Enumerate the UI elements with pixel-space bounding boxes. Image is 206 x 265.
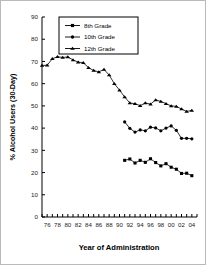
series-line <box>42 57 192 112</box>
data-point-triangle <box>122 95 127 98</box>
data-point-triangle <box>117 88 122 91</box>
x-tick-label: 94 <box>137 221 144 228</box>
y-tick-label: 60 <box>31 80 38 87</box>
data-point-triangle <box>153 98 158 101</box>
data-point-square <box>180 172 183 175</box>
data-point-circle <box>164 127 167 130</box>
x-tick-label: 02 <box>178 221 185 228</box>
y-tick-label: 40 <box>31 124 38 131</box>
data-point-square <box>154 161 157 164</box>
data-point-triangle <box>112 82 117 85</box>
x-tick-label: 84 <box>85 221 92 228</box>
y-tick-label: 80 <box>31 35 38 42</box>
data-point-square <box>159 164 162 167</box>
data-point-circle <box>149 126 152 129</box>
data-point-square <box>170 166 173 169</box>
x-tick-label: 76 <box>44 221 51 228</box>
legend-label[interactable]: 10th Grade <box>84 33 116 40</box>
y-axis-title: % Alcohol Users (30-Day) <box>8 73 17 160</box>
data-point-circle <box>159 129 162 132</box>
data-point-triangle <box>55 55 60 58</box>
data-point-square <box>190 174 193 177</box>
data-point-triangle <box>190 109 195 112</box>
legend-items: 8th Grade10th Grade12th Grade <box>65 22 116 52</box>
chart-legend: 8th Grade10th Grade12th Grade <box>59 17 138 54</box>
x-tick-label: 86 <box>95 221 102 228</box>
data-point-square <box>164 162 167 165</box>
data-point-circle <box>144 129 147 132</box>
legend-label[interactable]: 12th Grade <box>84 45 116 52</box>
data-point-circle <box>180 137 183 140</box>
x-axis-title: Year of Administration <box>79 243 160 252</box>
y-tick-label: 90 <box>31 13 38 20</box>
data-point-triangle <box>143 101 148 104</box>
data-point-square <box>139 159 142 162</box>
x-tick-label: 82 <box>75 221 82 228</box>
data-point-square <box>175 168 178 171</box>
x-tick-label: 04 <box>188 221 195 228</box>
x-tick-label: 90 <box>116 221 123 228</box>
data-point-circle <box>71 35 74 38</box>
y-axis-tick-labels: 0102030405060708090 <box>31 13 38 220</box>
series-8th-grade <box>123 157 193 177</box>
data-point-square <box>123 159 126 162</box>
y-tick-label: 30 <box>31 147 38 154</box>
data-point-square <box>144 161 147 164</box>
series-10th-grade <box>123 120 193 140</box>
y-tick-label: 20 <box>31 169 38 176</box>
y-tick-label: 70 <box>31 58 38 65</box>
data-point-circle <box>154 126 157 129</box>
data-point-triangle <box>76 60 81 63</box>
x-tick-label: 92 <box>126 221 133 228</box>
data-point-circle <box>175 129 178 132</box>
y-tick-label: 50 <box>31 102 38 109</box>
x-tick-label: 80 <box>64 221 71 228</box>
x-tick-label: 98 <box>157 221 164 228</box>
x-tick-label: 78 <box>54 221 61 228</box>
y-tick-label: 0 <box>35 213 39 220</box>
series-line <box>125 122 192 139</box>
data-point-square <box>133 161 136 164</box>
data-point-circle <box>128 127 131 130</box>
y-tick-label: 10 <box>31 191 38 198</box>
data-point-circle <box>139 128 142 131</box>
series-12th-grade <box>40 55 194 113</box>
legend-label[interactable]: 8th Grade <box>84 22 112 29</box>
data-point-circle <box>133 131 136 134</box>
data-point-square <box>128 157 131 160</box>
data-point-circle <box>170 124 173 127</box>
x-axis-tick-labels: 767880828486889092949698000204 <box>44 221 196 228</box>
x-tick-label: 88 <box>106 221 113 228</box>
x-tick-label: 96 <box>147 221 154 228</box>
x-tick-label: 00 <box>168 221 175 228</box>
data-point-square <box>185 172 188 175</box>
data-point-circle <box>185 137 188 140</box>
data-point-triangle <box>164 102 169 105</box>
data-point-circle <box>190 137 193 140</box>
data-point-triangle <box>102 68 107 71</box>
data-point-square <box>71 24 74 27</box>
data-point-circle <box>123 120 126 123</box>
chart-frame: 767880828486889092949698000204 010203040… <box>0 0 206 265</box>
series-layer <box>40 55 194 177</box>
chart-plot-area: 767880828486889092949698000204 010203040… <box>1 1 206 265</box>
data-point-square <box>149 157 152 160</box>
alcohol-users-line-chart: 767880828486889092949698000204 010203040… <box>1 1 206 265</box>
